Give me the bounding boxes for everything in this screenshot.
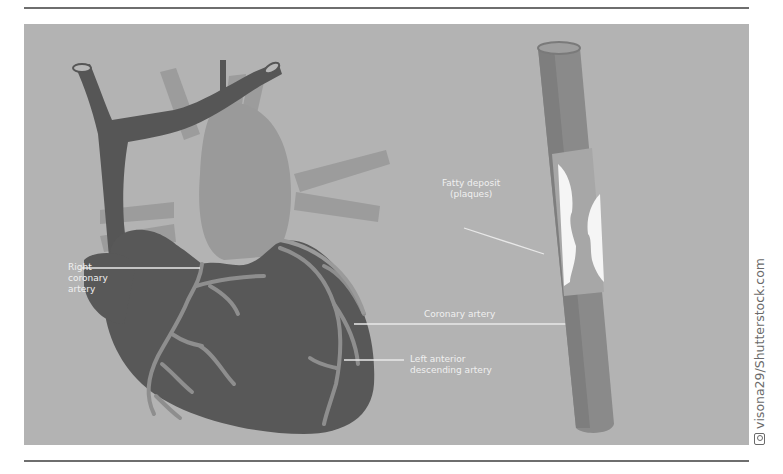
label-coronary-artery: Coronary artery [424, 309, 495, 320]
credit-text: visona29/Shutterstock.com [752, 258, 767, 429]
heart-artery-illustration [24, 24, 749, 445]
label-line: artery [68, 284, 108, 295]
label-line: Fatty deposit [442, 178, 500, 189]
bottom-divider [24, 460, 749, 462]
image-credit: visona29/Shutterstock.com [752, 258, 767, 445]
heart [104, 230, 374, 434]
label-left-anterior-descending-artery: Left anterior descending artery [410, 354, 492, 376]
label-line: Right [68, 262, 108, 273]
illustration-panel: Right coronary artery Fatty deposit (pla… [24, 24, 749, 445]
label-line: Left anterior [410, 354, 492, 365]
artery-cross-section [538, 42, 614, 433]
label-line: descending artery [410, 365, 492, 376]
aorta [199, 102, 291, 260]
top-divider [24, 7, 749, 9]
label-fatty-deposit: Fatty deposit (plaques) [442, 178, 500, 200]
label-right-coronary-artery: Right coronary artery [68, 262, 108, 295]
camera-icon [754, 433, 765, 445]
label-line: coronary [68, 273, 108, 284]
label-line: (plaques) [442, 189, 500, 200]
